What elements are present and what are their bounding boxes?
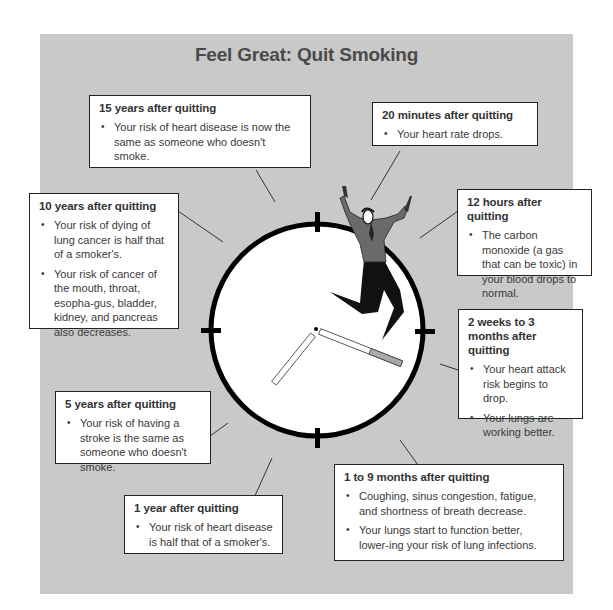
milestone-bullet: Your heart rate drops. bbox=[382, 127, 529, 142]
milestone-heading: 1 to 9 months after quitting bbox=[344, 470, 555, 484]
milestone-bullet: Your lungs are working better. bbox=[468, 411, 574, 440]
milestone-2-weeks-3-months: 2 weeks to 3 months after quitting Your … bbox=[458, 309, 583, 419]
milestone-bullet: The carbon monoxide (a gas that can be t… bbox=[467, 228, 583, 301]
milestone-heading: 10 years after quitting bbox=[39, 199, 170, 213]
milestone-1-year: 1 year after quitting Your risk of heart… bbox=[124, 495, 283, 554]
milestone-bullet: Your risk of cancer of the mouth, throat… bbox=[39, 267, 170, 340]
milestone-heading: 2 weeks to 3 months after quitting bbox=[468, 315, 574, 357]
milestone-15-years: 15 years after quitting Your risk of hea… bbox=[89, 95, 311, 168]
milestone-heading: 20 minutes after quitting bbox=[382, 108, 529, 122]
milestone-bullet: Your lungs start to function better, low… bbox=[344, 523, 555, 552]
milestone-5-years: 5 years after quitting Your risk of havi… bbox=[55, 391, 211, 464]
milestone-bullet: Your risk of heart disease is now the sa… bbox=[99, 120, 302, 164]
milestone-heading: 12 hours after quitting bbox=[467, 195, 583, 223]
milestone-bullet: Your heart attack risk begins to drop. bbox=[468, 362, 574, 406]
milestone-bullet: Your risk of having a stroke is the same… bbox=[65, 416, 202, 474]
milestone-bullet: Your risk of dying of lung cancer is hal… bbox=[39, 218, 170, 262]
milestone-bullet: Coughing, sinus congestion, fatigue, and… bbox=[344, 489, 555, 518]
milestone-12-hours: 12 hours after quitting The carbon monox… bbox=[457, 189, 592, 276]
milestone-heading: 1 year after quitting bbox=[134, 501, 274, 515]
milestone-heading: 5 years after quitting bbox=[65, 397, 202, 411]
clock-icon bbox=[201, 212, 435, 448]
milestone-10-years: 10 years after quitting Your risk of dyi… bbox=[29, 193, 179, 329]
milestone-1-to-9-months: 1 to 9 months after quitting Coughing, s… bbox=[334, 464, 564, 561]
milestone-20-minutes: 20 minutes after quitting Your heart rat… bbox=[372, 102, 538, 146]
milestone-heading: 15 years after quitting bbox=[99, 101, 302, 115]
milestone-bullet: Your risk of heart disease is half that … bbox=[134, 520, 274, 549]
